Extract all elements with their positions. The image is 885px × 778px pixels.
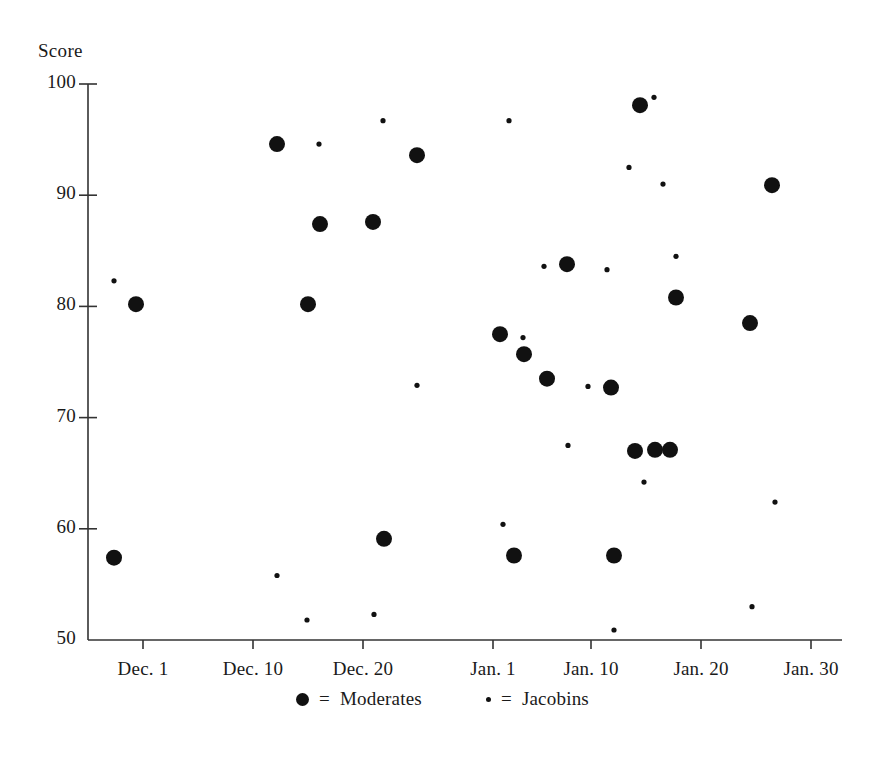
data-point-moderates xyxy=(539,371,555,387)
data-point-moderates xyxy=(269,136,285,152)
x-axis-tick-label: Dec. 20 xyxy=(293,658,433,680)
data-point-moderates xyxy=(603,380,619,396)
chart-legend: = Moderates = Jacobins xyxy=(0,688,885,710)
data-point-jacobins xyxy=(506,118,511,123)
data-point-jacobins xyxy=(111,278,116,283)
data-point-jacobins xyxy=(371,612,376,617)
data-point-moderates xyxy=(647,442,663,458)
data-point-moderates xyxy=(606,547,622,563)
data-point-moderates xyxy=(365,214,381,230)
data-point-moderates xyxy=(300,296,316,312)
data-point-moderates xyxy=(662,442,678,458)
small-filled-dot-icon xyxy=(486,697,491,702)
y-axis-tick-label: 60 xyxy=(18,516,76,538)
series-moderates xyxy=(106,97,780,566)
data-point-moderates xyxy=(128,296,144,312)
y-axis-tick-label: 70 xyxy=(18,405,76,427)
data-point-jacobins xyxy=(626,165,631,170)
data-point-jacobins xyxy=(414,383,419,388)
data-point-moderates xyxy=(106,550,122,566)
series-jacobins xyxy=(111,95,777,633)
data-point-jacobins xyxy=(565,443,570,448)
data-point-jacobins xyxy=(749,604,754,609)
y-axis-tick-label: 80 xyxy=(18,293,76,315)
data-point-moderates xyxy=(627,443,643,459)
data-point-moderates xyxy=(742,315,758,331)
data-point-jacobins xyxy=(641,479,646,484)
y-axis-tick-label: 90 xyxy=(18,182,76,204)
data-point-jacobins xyxy=(274,573,279,578)
data-point-jacobins xyxy=(585,384,590,389)
data-point-jacobins xyxy=(673,254,678,259)
data-point-moderates xyxy=(506,547,522,563)
legend-label-jacobins: Jacobins xyxy=(522,688,589,710)
data-point-jacobins xyxy=(660,181,665,186)
legend-label-moderates: Moderates xyxy=(340,688,422,710)
data-point-jacobins xyxy=(604,267,609,272)
legend-equals-sign: = xyxy=(318,688,331,710)
data-point-jacobins xyxy=(772,500,777,505)
data-point-moderates xyxy=(559,256,575,272)
data-point-jacobins xyxy=(520,335,525,340)
y-axis-tick-label: 50 xyxy=(18,627,76,649)
data-point-moderates xyxy=(409,147,425,163)
data-point-jacobins xyxy=(541,264,546,269)
x-axis-tick-label: Jan. 30 xyxy=(741,658,881,680)
data-point-jacobins xyxy=(304,617,309,622)
data-point-moderates xyxy=(492,326,508,342)
legend-equals-sign: = xyxy=(500,688,513,710)
legend-item-moderates: = Moderates xyxy=(296,688,422,710)
data-point-moderates xyxy=(516,346,532,362)
large-filled-circle-icon xyxy=(296,693,309,706)
scatter-chart: Score 1009080706050 Dec. 1Dec. 10Dec. 20… xyxy=(0,0,885,778)
data-point-moderates xyxy=(668,290,684,306)
data-point-jacobins xyxy=(316,141,321,146)
data-point-moderates xyxy=(376,531,392,547)
legend-item-jacobins: = Jacobins xyxy=(486,688,589,710)
data-point-jacobins xyxy=(651,95,656,100)
y-axis-tick-label: 100 xyxy=(18,71,76,93)
data-point-jacobins xyxy=(611,627,616,632)
data-point-moderates xyxy=(312,216,328,232)
data-point-moderates xyxy=(632,97,648,113)
data-point-moderates xyxy=(764,177,780,193)
data-point-jacobins xyxy=(500,522,505,527)
data-point-jacobins xyxy=(380,118,385,123)
